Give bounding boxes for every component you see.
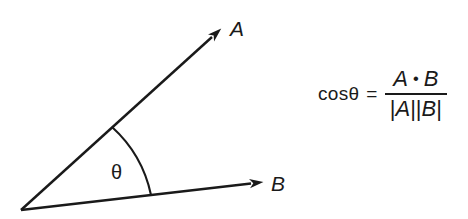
vector-b-label: B bbox=[271, 172, 285, 195]
angle-label: θ bbox=[111, 161, 122, 183]
formula-denominator: |A||B| bbox=[385, 95, 447, 121]
formula-denominator-b: B bbox=[422, 96, 437, 121]
vector-a-label: A bbox=[228, 17, 244, 40]
formula-numerator-b: B bbox=[424, 66, 439, 91]
formula-fraction: A•B |A||B| bbox=[385, 66, 447, 122]
formula-equals-sign: = bbox=[366, 83, 377, 105]
vector-angle-figure: A B θ cosθ = A•B |A||B| bbox=[0, 0, 468, 219]
formula-lhs: cosθ bbox=[318, 83, 359, 105]
formula-denominator-a: A bbox=[395, 96, 410, 121]
dot-product-cosine-formula: cosθ = A•B |A||B| bbox=[318, 66, 447, 122]
vector-b-line bbox=[21, 184, 251, 211]
magnitude-bars-middle: || bbox=[410, 96, 421, 121]
magnitude-bar-close: | bbox=[436, 96, 442, 121]
vector-a-line bbox=[21, 37, 212, 210]
formula-numerator: A•B bbox=[385, 66, 447, 95]
dot-product-icon: • bbox=[413, 69, 419, 88]
formula-numerator-a: A bbox=[393, 66, 408, 91]
